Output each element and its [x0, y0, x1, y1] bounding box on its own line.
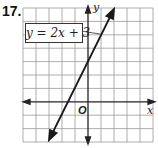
y-axis-label: y	[93, 1, 99, 14]
y-axis-down-arrow-icon	[86, 137, 91, 144]
origin-label: O	[78, 104, 87, 116]
x-axis-label: x	[147, 104, 153, 117]
equation-label: y = 2x + 3	[25, 23, 83, 43]
y-axis-up-arrow-icon	[86, 6, 91, 13]
x-axis-left-arrow-icon	[23, 99, 30, 104]
line-down-arrow-icon	[49, 130, 57, 140]
line-up-arrow-icon	[107, 9, 115, 19]
